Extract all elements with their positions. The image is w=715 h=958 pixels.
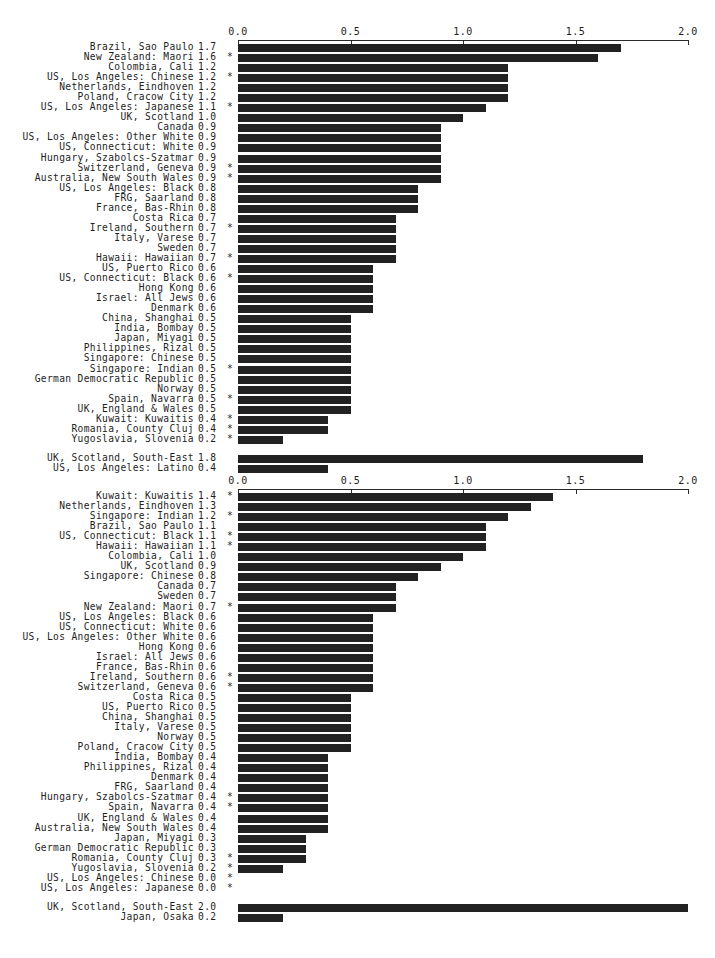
bar [238, 305, 373, 313]
significance-marker: * [227, 802, 233, 812]
x-axis-tick-label: 1.0 [453, 475, 473, 486]
bar [238, 355, 351, 363]
bar-chart-bottom: 0.00.51.01.52.0 Kuwait: Kuwaitis1.4*Neth… [0, 470, 715, 958]
bar [238, 664, 373, 672]
bar [238, 684, 373, 692]
bar [238, 503, 531, 511]
x-axis-tick-label: 2.0 [678, 26, 698, 37]
bar-row: US, Los Angeles: Other White0.6 [0, 633, 715, 643]
bar [238, 84, 508, 92]
bar [238, 104, 486, 112]
bar-row: China, Shanghai0.5 [0, 314, 715, 324]
bar [238, 44, 621, 52]
bar-row: Denmark0.4 [0, 773, 715, 783]
bar [238, 315, 351, 323]
bar-row: UK, Scotland, South-East2.0 [0, 903, 715, 913]
bar [238, 724, 351, 732]
bar [238, 523, 486, 531]
bar [238, 335, 351, 343]
bar [238, 533, 486, 541]
bar-row-label: Sweden [157, 591, 194, 601]
bar [238, 914, 283, 922]
bar [238, 406, 351, 414]
significance-marker: * [227, 273, 233, 283]
bar [238, 195, 418, 203]
x-axis-tick-label: 0.0 [228, 26, 248, 37]
bar [238, 904, 688, 912]
bar-row: UK, Scotland1.0 [0, 113, 715, 123]
bar [238, 436, 283, 444]
x-axis-tick-label: 2.0 [678, 475, 698, 486]
significance-marker: * [227, 253, 233, 263]
significance-marker: * [227, 72, 233, 82]
significance-marker: * [227, 682, 233, 692]
bar [238, 764, 328, 772]
bar-row: US, Los Angeles: Japanese1.1* [0, 103, 715, 113]
bar-row: Australia, New South Wales0.4 [0, 824, 715, 834]
bar-row-label: Yugoslavia, Slovenia [71, 434, 194, 444]
bar [238, 235, 396, 243]
bar [238, 583, 396, 591]
x-axis-tick-label: 0.0 [228, 475, 248, 486]
bar [238, 74, 508, 82]
bar [238, 114, 463, 122]
bar [238, 593, 396, 601]
bar [238, 295, 373, 303]
bar [238, 815, 328, 823]
bar [238, 325, 351, 333]
bar [238, 604, 396, 612]
bar [238, 774, 328, 782]
bar-row: US, Los Angeles: Black0.8 [0, 184, 715, 194]
significance-marker: * [227, 434, 233, 444]
significance-marker: * [227, 602, 233, 612]
bar-row: China, Shanghai0.5 [0, 713, 715, 723]
bar-row: India, Bombay0.5 [0, 324, 715, 334]
bar [238, 513, 508, 521]
bar [238, 265, 373, 273]
bar-row: Israel: All Jews0.6 [0, 294, 715, 304]
bar [238, 634, 373, 642]
bar-row: Philippines, Rizal0.4 [0, 763, 715, 773]
bar [238, 845, 306, 853]
bar [238, 205, 418, 213]
bar [238, 644, 373, 652]
bar [238, 865, 283, 873]
bar-chart-top: 0.00.51.01.52.0 Brazil, Sao Paulo1.7New … [0, 0, 715, 470]
bar [238, 245, 396, 253]
bar-row: Italy, Varese0.5 [0, 723, 715, 733]
bar-row: US, Connecticut: Black0.6* [0, 274, 715, 284]
bar [238, 64, 508, 72]
significance-marker: * [227, 223, 233, 233]
bar [238, 543, 486, 551]
bar [238, 416, 328, 424]
bar [238, 155, 441, 163]
bar [238, 386, 351, 394]
bar-row: Switzerland, Geneva0.6* [0, 683, 715, 693]
bar-row: Colombia, Cali1.0 [0, 552, 715, 562]
bar [238, 345, 351, 353]
bar [238, 654, 373, 662]
bar-row-label: UK, England & Wales [78, 813, 194, 823]
x-axis-tick-label: 1.5 [566, 475, 586, 486]
bar [238, 794, 328, 802]
bar [238, 614, 373, 622]
bar-row-label: Japan, Osaka [120, 912, 194, 922]
bar-row-value: 0.2 [198, 434, 216, 444]
bar [238, 175, 441, 183]
significance-marker: * [227, 102, 233, 112]
significance-marker: * [227, 364, 233, 374]
bar-row: Ireland, Southern0.7* [0, 224, 715, 234]
bar-rows-bottom-chart: Kuwait: Kuwaitis1.4*Netherlands, Eindhov… [0, 492, 715, 923]
bar-row: Yugoslavia, Slovenia0.2* [0, 435, 715, 445]
bar-row: German Democratic Republic0.5 [0, 375, 715, 385]
x-axis-bottom-chart: 0.00.51.01.52.0 [238, 489, 688, 490]
x-axis-tick-label: 0.5 [341, 475, 361, 486]
bar-row-value: 0.9 [198, 142, 216, 152]
significance-marker: * [227, 491, 233, 501]
bar-row-value: 0.7 [198, 591, 216, 601]
bar-row-label: US, Connecticut: White [59, 142, 194, 152]
bar-rows-top-chart: Brazil, Sao Paulo1.7New Zealand: Maori1.… [0, 43, 715, 474]
bar-row: France, Bas-Rhin0.8 [0, 204, 715, 214]
bar [238, 855, 306, 863]
bar-row-label: Singapore: Chinese [84, 353, 194, 363]
